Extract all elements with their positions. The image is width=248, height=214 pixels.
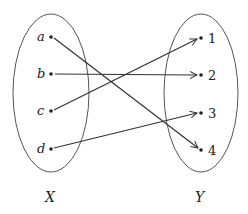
point-b bbox=[49, 72, 53, 76]
point-1 bbox=[199, 36, 203, 40]
arrow-a-to-4 bbox=[54, 38, 198, 148]
diagram-canvas: a b c d 1 2 3 4 X Y bbox=[0, 0, 248, 214]
point-3 bbox=[199, 111, 203, 115]
set-y-name: Y bbox=[195, 189, 206, 205]
point-2 bbox=[199, 73, 203, 77]
label-b: b bbox=[37, 66, 45, 81]
label-3: 3 bbox=[208, 106, 216, 121]
point-a bbox=[49, 35, 53, 39]
point-4 bbox=[199, 148, 203, 152]
point-c bbox=[49, 109, 53, 113]
label-4: 4 bbox=[208, 143, 216, 158]
label-a: a bbox=[37, 29, 45, 44]
point-d bbox=[49, 147, 53, 151]
function-mapping-diagram: a b c d 1 2 3 4 X Y bbox=[0, 0, 248, 214]
label-2: 2 bbox=[208, 68, 216, 83]
label-1: 1 bbox=[208, 31, 216, 46]
set-x-name: X bbox=[44, 189, 56, 205]
label-d: d bbox=[37, 141, 45, 156]
label-c: c bbox=[37, 103, 45, 118]
